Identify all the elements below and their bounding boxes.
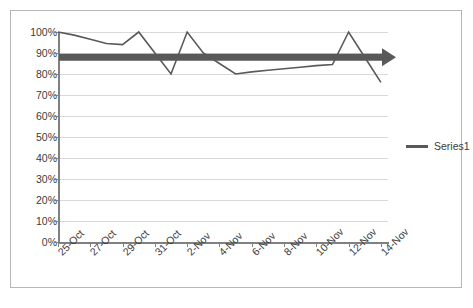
chart-frame: 100%90%80%70%60%50%40%30%20%10%0% 25-Oct…	[10, 10, 462, 288]
legend: Series1	[406, 141, 470, 152]
legend-label-series1: Series1	[434, 141, 470, 152]
legend-line-swatch	[406, 145, 428, 148]
target-arrow-icon	[59, 48, 396, 66]
plot-area: 100%90%80%70%60%50%40%30%20%10%0% 25-Oct…	[11, 11, 463, 289]
series-plot	[11, 11, 463, 289]
